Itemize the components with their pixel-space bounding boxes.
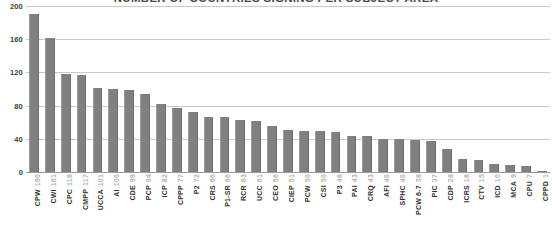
- bar[interactable]: [77, 75, 87, 172]
- y-axis: 04080120160200: [0, 6, 26, 172]
- bar[interactable]: [362, 136, 372, 172]
- x-tick-slot: PCP94: [137, 174, 153, 240]
- bar[interactable]: [61, 74, 71, 172]
- bar[interactable]: [299, 131, 309, 173]
- bar[interactable]: [156, 104, 166, 172]
- x-tick-label: P272: [193, 174, 201, 194]
- bar[interactable]: [140, 94, 150, 172]
- bar[interactable]: [220, 117, 230, 172]
- x-tick-value: 72: [193, 174, 201, 182]
- x-tick-value: 118: [66, 174, 74, 186]
- bar[interactable]: [188, 112, 198, 172]
- x-tick-value: 66: [224, 174, 232, 182]
- bar[interactable]: [108, 89, 118, 172]
- x-tick-value: 48: [336, 174, 344, 182]
- x-tick-label: ICRS16: [463, 174, 471, 203]
- x-tick-category: CTV: [478, 185, 486, 200]
- x-tick-category: CPU: [526, 181, 534, 196]
- bar[interactable]: [347, 136, 357, 172]
- x-tick-label: UCCA101: [97, 174, 105, 210]
- x-tick-label: RCR63: [240, 174, 248, 201]
- x-tick-category: AFI: [383, 185, 391, 197]
- bar[interactable]: [442, 149, 452, 172]
- bar[interactable]: [489, 164, 499, 172]
- x-tick-value: 1: [542, 174, 550, 178]
- bar-slot: [296, 6, 312, 172]
- x-tick-value: 63: [240, 174, 248, 182]
- x-tick-category: UCC: [256, 185, 264, 201]
- bar-slot: [486, 6, 502, 172]
- bar[interactable]: [505, 165, 515, 172]
- x-tick-value: 10: [494, 174, 502, 182]
- bar[interactable]: [458, 159, 468, 172]
- bar-slot: [121, 6, 137, 172]
- x-tick-label: AI100: [113, 174, 121, 197]
- x-tick-slot: MCA9: [502, 174, 518, 240]
- x-tick-slot: ICP82: [153, 174, 169, 240]
- bar[interactable]: [267, 126, 277, 172]
- bar[interactable]: [235, 120, 245, 172]
- x-tick-label: CPU7: [526, 174, 534, 196]
- y-tick-label: 0: [19, 168, 23, 177]
- x-tick-category: UCCA: [97, 189, 105, 210]
- x-tick-label: CEO56: [272, 174, 280, 201]
- x-tick-slot: PCW 6-738: [407, 174, 423, 240]
- bar[interactable]: [426, 141, 436, 172]
- x-tick-label: CPPP77: [177, 174, 185, 205]
- bar-chart: NUMBER OF COUNTRIES SIGNING PER SUBJECT …: [0, 0, 552, 240]
- bar[interactable]: [29, 14, 39, 172]
- bar[interactable]: [378, 139, 388, 172]
- bar[interactable]: [537, 171, 547, 172]
- axis-baseline: [26, 172, 550, 173]
- bar-slot: [312, 6, 328, 172]
- x-tick-value: 77: [177, 174, 185, 182]
- x-tick-category: CMPP: [82, 189, 90, 210]
- bar[interactable]: [251, 121, 261, 172]
- x-tick-value: 43: [367, 174, 375, 182]
- x-tick-category: SPHC: [399, 185, 407, 205]
- bar[interactable]: [124, 90, 134, 172]
- x-tick-label: CRS66: [209, 174, 217, 201]
- bar[interactable]: [315, 131, 325, 173]
- x-tick-value: 7: [526, 174, 534, 178]
- bar-slot: [391, 6, 407, 172]
- x-tick-category: P1-SR: [224, 185, 232, 207]
- x-tick-category: CWI: [50, 189, 58, 203]
- x-tick-value: 117: [82, 174, 90, 186]
- x-tick-slot: AFI40: [375, 174, 391, 240]
- x-tick-label: PCP94: [145, 174, 153, 200]
- bar-slot: [137, 6, 153, 172]
- bar-slot: [74, 6, 90, 172]
- bar[interactable]: [331, 132, 341, 172]
- x-tick-category: CSI: [320, 185, 328, 197]
- bar[interactable]: [394, 139, 404, 172]
- bar[interactable]: [410, 140, 420, 172]
- x-tick-category: CRQ: [367, 185, 375, 201]
- x-tick-label: P1-SR66: [224, 174, 232, 207]
- bar[interactable]: [204, 117, 214, 172]
- x-tick-slot: CPPP77: [169, 174, 185, 240]
- x-tick-value: 16: [463, 174, 471, 182]
- x-tick-value: 66: [209, 174, 217, 182]
- x-tick-label: CDP28: [447, 174, 455, 201]
- x-tick-category: ICD: [494, 185, 502, 198]
- bar-slot: [423, 6, 439, 172]
- bar[interactable]: [93, 88, 103, 172]
- x-tick-slot: CSI50: [312, 174, 328, 240]
- bar[interactable]: [474, 160, 484, 172]
- bar[interactable]: [283, 130, 293, 172]
- x-tick-category: RCR: [240, 185, 248, 201]
- bar[interactable]: [172, 108, 182, 172]
- x-tick-category: CPC: [66, 189, 74, 204]
- bar-slot: [534, 6, 550, 172]
- bar-slot: [375, 6, 391, 172]
- x-tick-label: UCC61: [256, 174, 264, 201]
- x-tick-slot: CIEP51: [280, 174, 296, 240]
- bar-slot: [328, 6, 344, 172]
- bar[interactable]: [45, 38, 55, 172]
- bar-slot: [153, 6, 169, 172]
- plot-area: [26, 6, 550, 172]
- bar[interactable]: [521, 166, 531, 172]
- x-tick-value: 82: [161, 174, 169, 182]
- x-tick-label: CPW190: [34, 174, 42, 206]
